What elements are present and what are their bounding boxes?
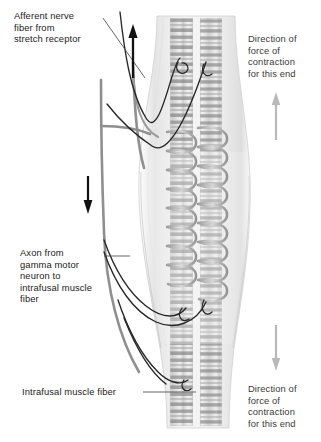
intrafusal-fiber-label: Intrafusal muscle fiber [22, 386, 116, 398]
leader-afferent [103, 18, 145, 78]
contraction-force-arrow-top [272, 92, 280, 140]
efferent-signal-arrow [84, 176, 93, 214]
direction-top-label: Direction of force of contraction for th… [248, 33, 297, 79]
contraction-force-arrow-bottom [272, 325, 280, 371]
gamma-axon-label: Axon from gamma motor neuron to intrafus… [20, 247, 92, 305]
figure-canvas: Afferent nerve fiber from stretch recept… [0, 0, 321, 442]
afferent-nerve-label: Afferent nerve fiber from stretch recept… [14, 10, 81, 45]
afferent-signal-arrow [128, 24, 137, 78]
direction-bottom-label: Direction of force of contraction for th… [248, 383, 297, 429]
